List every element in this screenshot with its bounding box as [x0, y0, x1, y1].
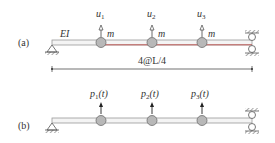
panel-a: (a) EI u1 m [18, 8, 259, 72]
lumped-mass-icon [96, 116, 106, 126]
arrow-up-icon [200, 25, 204, 30]
stiffness-label: EI [59, 28, 70, 39]
lumped-mass-icon [147, 116, 157, 126]
disp-label-u2: u2 [147, 8, 156, 21]
dimension-line: 4@L/4 [51, 55, 253, 72]
lumped-mass-icon [197, 116, 207, 126]
dimension-label: 4@L/4 [138, 55, 166, 66]
disp-label-u3: u3 [197, 8, 206, 21]
pin-support-icon [45, 123, 59, 133]
force-arrow-icon [150, 102, 154, 107]
disp-label-u1: u1 [96, 8, 105, 21]
lumped-mass-icon [197, 38, 207, 48]
arrow-up-icon [150, 25, 154, 30]
panel-a-label: (a) [18, 37, 29, 49]
beam-diagram: (a) EI u1 m [0, 0, 275, 143]
arrow-up-icon [99, 25, 103, 30]
pin-support-icon [45, 45, 59, 55]
mass-label-m2: m [158, 28, 165, 39]
force-arrow-icon [99, 102, 103, 107]
lumped-mass-icon [96, 38, 106, 48]
panel-b: (b) p1(t) p2(t) [18, 88, 259, 134]
force-label-p1: p1(t) [89, 88, 109, 101]
mass-label-m3: m [208, 28, 215, 39]
lumped-mass-icon [147, 38, 157, 48]
mass-label-m1: m [107, 28, 114, 39]
force-label-p3: p3(t) [190, 88, 210, 101]
force-arrow-icon [200, 102, 204, 107]
force-label-p2: p2(t) [140, 88, 160, 101]
panel-b-label: (b) [18, 120, 30, 132]
